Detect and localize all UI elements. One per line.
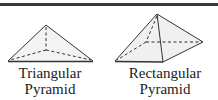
triangular-pyramid-label: Triangular Pyramid	[10, 65, 90, 97]
rectangular-pyramid-label: Rectangular Pyramid	[115, 65, 215, 97]
triangular-pyramid-shape	[8, 25, 93, 62]
rectangular-label-line1: Rectangular	[115, 65, 215, 81]
triangular-label-line1: Triangular	[10, 65, 90, 81]
rectangular-pyramid-shape	[115, 14, 203, 62]
triangular-label-line2: Pyramid	[10, 81, 90, 97]
rectangular-label-line2: Pyramid	[115, 81, 215, 97]
